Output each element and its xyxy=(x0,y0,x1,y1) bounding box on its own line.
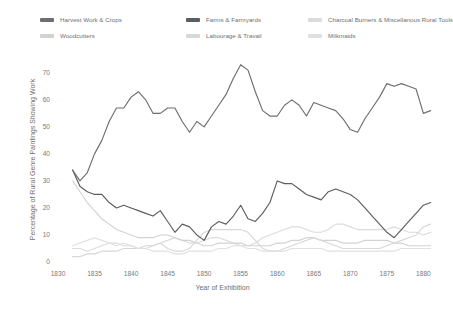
x-axis-title: Year of Exhibition xyxy=(0,284,445,291)
x-axis-ticks: 1830183518401845185018551860186518701875… xyxy=(51,270,431,277)
series-line-charcoal-burners-miscellanous-rural-tools xyxy=(73,224,431,251)
legend-item-milkmaids[interactable]: Milkmaids xyxy=(308,32,356,40)
legend-item-woodcutters[interactable]: Woodcutters xyxy=(40,32,95,40)
legend-item-labourage-travail[interactable]: Labourage & Travail xyxy=(186,32,262,40)
legend-label-farms-farmyards: Farms & Farmyards xyxy=(206,16,261,24)
legend-item-harvest-work-crops[interactable]: Harvest Work & Crops xyxy=(40,16,122,24)
y-tick-label: 70 xyxy=(43,69,51,76)
legend-label-milkmaids: Milkmaids xyxy=(328,32,356,40)
plot-area: 010203040506070 183018351840184518501855… xyxy=(0,52,445,310)
x-tick-label: 1865 xyxy=(306,270,321,277)
line-chart-svg: 010203040506070 183018351840184518501855… xyxy=(0,52,445,310)
x-tick-label: 1845 xyxy=(160,270,175,277)
legend-label-harvest-work-crops: Harvest Work & Crops xyxy=(60,16,122,24)
x-tick-label: 1840 xyxy=(124,270,139,277)
y-tick-label: 10 xyxy=(43,231,51,238)
legend-swatch-labourage-travail xyxy=(186,34,200,38)
x-tick-label: 1850 xyxy=(197,270,212,277)
chart-legend: Harvest Work & Crops Woodcutters Farms &… xyxy=(40,12,440,46)
x-tick-label: 1830 xyxy=(51,270,66,277)
legend-label-labourage-travail: Labourage & Travail xyxy=(206,32,262,40)
y-tick-label: 30 xyxy=(43,177,51,184)
legend-item-farms-farmyards[interactable]: Farms & Farmyards xyxy=(186,16,261,24)
legend-swatch-woodcutters xyxy=(40,34,54,38)
legend-swatch-milkmaids xyxy=(308,34,322,38)
x-tick-label: 1870 xyxy=(343,270,358,277)
x-tick-label: 1880 xyxy=(416,270,431,277)
series-line-harvest-work-crops xyxy=(73,65,431,181)
y-tick-label: 20 xyxy=(43,204,51,211)
x-tick-label: 1875 xyxy=(380,270,395,277)
y-tick-label: 40 xyxy=(43,150,51,157)
y-tick-label: 60 xyxy=(43,96,51,103)
legend-item-charcoal-burners[interactable]: Charcoal Burners & Miscellanous Rural To… xyxy=(308,16,453,24)
legend-label-woodcutters: Woodcutters xyxy=(60,32,95,40)
y-axis-title: Percentage of Rural Genre Paintings Show… xyxy=(29,60,36,260)
y-tick-label: 0 xyxy=(46,258,50,265)
x-tick-label: 1860 xyxy=(270,270,285,277)
x-tick-label: 1835 xyxy=(87,270,102,277)
data-series-group xyxy=(73,65,431,257)
legend-swatch-harvest-work-crops xyxy=(40,18,54,22)
y-axis-ticks: 010203040506070 xyxy=(43,69,51,265)
y-tick-label: 50 xyxy=(43,123,51,130)
legend-swatch-charcoal-burners xyxy=(308,18,322,22)
legend-label-charcoal-burners: Charcoal Burners & Miscellanous Rural To… xyxy=(328,16,453,24)
legend-swatch-farms-farmyards xyxy=(186,18,200,22)
x-tick-label: 1855 xyxy=(233,270,248,277)
